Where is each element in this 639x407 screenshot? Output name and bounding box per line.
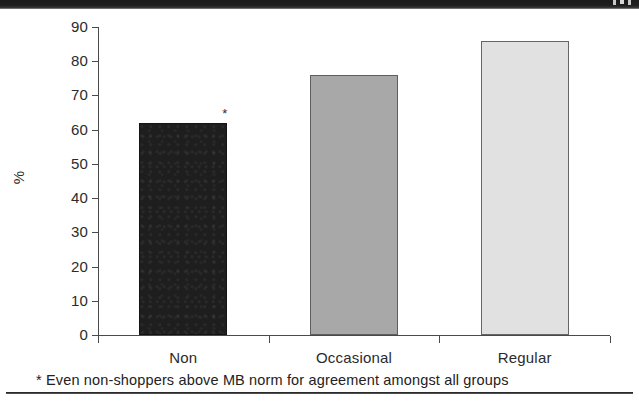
y-axis-tick-label-wrap: 30 (36, 224, 88, 239)
footnote-divider (6, 392, 633, 394)
y-axis-tick-label-wrap: 90 (36, 19, 88, 34)
y-axis-tick-label: 20 (42, 259, 88, 274)
y-axis-tick-label: 70 (42, 87, 88, 102)
title-fragment-glyph-2 (620, 0, 624, 4)
y-axis-tick (92, 198, 99, 199)
y-axis-tick (92, 95, 99, 96)
y-axis-tick (92, 164, 99, 165)
x-axis-line (98, 335, 610, 336)
x-axis-label-regular: Regular (437, 349, 613, 366)
y-axis-tick-label-wrap: 40 (36, 190, 88, 205)
y-axis-tick-label-wrap: 60 (36, 122, 88, 137)
x-axis-tick-origin (98, 336, 99, 343)
bar-occasional (310, 75, 398, 335)
x-axis-label-non: Non (95, 349, 271, 366)
y-axis-tick-label: 80 (42, 53, 88, 68)
asterisk-annotation-marker: * (222, 109, 227, 119)
y-axis-tick (92, 267, 99, 268)
bar-non (139, 123, 227, 335)
y-axis-tick-label-wrap: 70 (36, 87, 88, 102)
y-axis-tick-label-wrap: 0 (36, 327, 88, 342)
y-axis-tick-label: 10 (42, 293, 88, 308)
y-axis-tick-label-wrap: 80 (36, 53, 88, 68)
page-bottom-margin (0, 398, 639, 407)
y-axis-tick-label: 60 (42, 122, 88, 137)
y-axis-tick-label-wrap: 50 (36, 156, 88, 171)
title-fragment-glyph-1 (613, 0, 616, 5)
y-axis-tick (92, 301, 99, 302)
y-axis-tick-label: 90 (42, 19, 88, 34)
x-axis-tick (269, 336, 270, 343)
y-axis-tick (92, 232, 99, 233)
y-axis-tick (92, 27, 99, 28)
y-axis-tick-label-wrap: 10 (36, 293, 88, 308)
scan-top-dark-band (0, 0, 639, 9)
y-axis-tick (92, 130, 99, 131)
y-axis-tick-label: 50 (42, 156, 88, 171)
footnote-text: * Even non-shoppers above MB norm for ag… (36, 371, 509, 389)
y-axis-line (98, 27, 99, 336)
y-axis-title: % (10, 158, 27, 198)
y-axis-tick-label: 0 (42, 327, 88, 342)
y-axis-tick-label: 40 (42, 190, 88, 205)
x-axis-tick (439, 336, 440, 343)
y-axis-tick (92, 61, 99, 62)
bar-chart: % 9080706050403020100 NonOccasionalRegul… (0, 9, 639, 369)
y-axis-tick-label: 30 (42, 224, 88, 239)
title-fragment-glyph-3 (628, 0, 631, 5)
x-axis-label-occasional: Occasional (266, 349, 442, 366)
cropped-title-glyph-fragments (613, 0, 631, 9)
bar-regular (481, 41, 569, 335)
x-axis-tick (610, 336, 611, 343)
y-axis-tick-label-wrap: 20 (36, 259, 88, 274)
